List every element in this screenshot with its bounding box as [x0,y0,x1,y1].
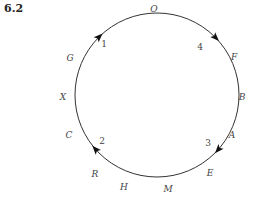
node-label-o: O [150,4,158,14]
node-label-f: F [230,52,238,62]
node-label-c: C [66,130,73,140]
step-label-3: 3 [205,138,211,148]
node-label-g: G [66,53,73,63]
step-label-1: 1 [101,39,107,49]
cycle-diagram: OFBAEMHRCXG 1423 [0,0,261,206]
node-label-a: A [228,130,236,140]
step-label-2: 2 [99,136,105,146]
node-label-h: H [119,182,128,192]
node-label-e: E [206,168,214,178]
step-label-4: 4 [197,42,203,52]
node-label-r: R [91,169,99,179]
node-label-x: X [59,92,67,102]
node-label-b: B [238,92,246,102]
node-label-m: M [162,184,173,194]
